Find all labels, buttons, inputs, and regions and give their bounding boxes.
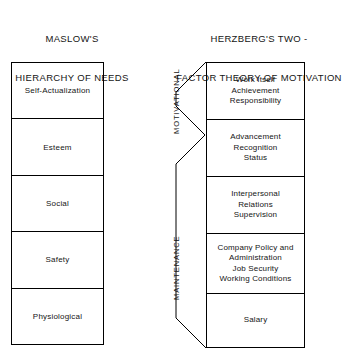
need-cell-safety: Safety xyxy=(12,232,103,288)
factor-cell-company-policy: Company Policy and Administration Job Se… xyxy=(207,234,304,294)
factor-label: Interpersonal Relations Supervision xyxy=(231,189,280,221)
factor-cell-advancement: Advancement Recognition Status xyxy=(207,120,304,177)
factor-cell-interpersonal-relations: Interpersonal Relations Supervision xyxy=(207,177,304,234)
herzberg-title-line-1: HERZBERG'S TWO - xyxy=(175,32,343,45)
need-label: Safety xyxy=(46,255,70,264)
need-label: Self-Actualization xyxy=(25,86,90,95)
factor-label: Salary xyxy=(244,315,268,326)
need-cell-self-actualization: Self-Actualization xyxy=(12,63,103,119)
factor-cell-work-itself: Work Itself Achievement Responsibility xyxy=(207,63,304,120)
maslow-hierarchy-column: Self-Actualization Esteem Social Safety … xyxy=(11,62,104,345)
need-cell-esteem: Esteem xyxy=(12,119,103,175)
need-cell-social: Social xyxy=(12,176,103,232)
factor-label: Company Policy and Administration Job Se… xyxy=(217,243,293,285)
group-label-motivational: MOTIVATIONAL xyxy=(172,68,181,134)
herzberg-factor-column: Work Itself Achievement Responsibility A… xyxy=(206,62,305,348)
factor-label: Advancement Recognition Status xyxy=(230,132,281,164)
need-label: Physiological xyxy=(33,312,82,321)
factor-cell-salary: Salary xyxy=(207,294,304,347)
need-label: Social xyxy=(46,199,69,208)
group-label-maintenance: MAINTENANCE xyxy=(172,236,181,301)
factor-label: Work Itself Achievement Responsibility xyxy=(230,75,281,107)
need-cell-physiological: Physiological xyxy=(12,289,103,344)
maslow-title-line-1: MASLOW'S xyxy=(0,32,144,45)
need-label: Esteem xyxy=(43,143,71,152)
comparison-diagram: MASLOW'S HIERARCHY OF NEEDS HERZBERG'S T… xyxy=(0,0,343,357)
